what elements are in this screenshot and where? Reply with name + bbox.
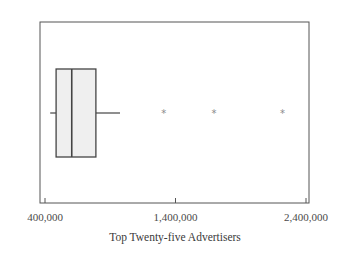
outlier-marker: *	[280, 108, 285, 119]
x-tick-label: 2,400,000	[284, 211, 329, 223]
box-plot	[50, 69, 120, 157]
outlier-marker: *	[211, 108, 216, 119]
x-tick-label: 1,400,000	[154, 211, 199, 223]
x-axis-title: Top Twenty-five Advertisers	[109, 231, 241, 244]
outlier-marker: *	[161, 108, 166, 119]
iqr-box	[56, 69, 96, 157]
box-plot-chart: *** 400,0001,400,0002,400,000 Top Twenty…	[0, 0, 350, 254]
outliers: ***	[161, 108, 285, 119]
x-axis: 400,0001,400,0002,400,000	[27, 198, 328, 223]
x-tick-label: 400,000	[27, 211, 63, 223]
